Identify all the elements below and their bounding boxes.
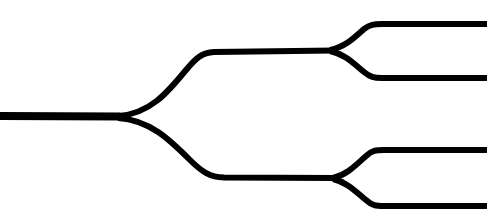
branching-diagram-svg — [0, 0, 499, 223]
branching-diagram-canvas — [0, 0, 499, 223]
diagram-background — [0, 0, 499, 223]
trunk-path — [0, 116, 120, 117]
